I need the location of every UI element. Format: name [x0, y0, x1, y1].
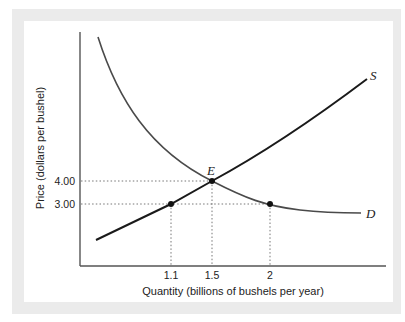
- y-axis-title: Price (dollars per bushel): [34, 87, 46, 209]
- supply-point-1-1: [168, 201, 174, 207]
- x-tick-2: 2: [267, 269, 273, 281]
- demand-curve: [98, 37, 361, 213]
- equilibrium-point: [209, 178, 215, 184]
- supply-demand-chart: E S D 4.00 3.00 1.1 1.5 2 Quantity (bill…: [0, 0, 405, 322]
- y-tick-4-00: 4.00: [55, 175, 76, 187]
- equilibrium-label: E: [206, 163, 215, 178]
- supply-curve: [96, 79, 367, 240]
- reference-lines: [81, 181, 270, 265]
- demand-point-2: [267, 201, 273, 207]
- supply-label: S: [370, 68, 377, 83]
- x-tick-1-5: 1.5: [205, 269, 220, 281]
- demand-label: D: [365, 206, 376, 221]
- x-axis-title: Quantity (billions of bushels per year): [142, 285, 324, 297]
- x-tick-1-1: 1.1: [164, 269, 179, 281]
- y-tick-3-00: 3.00: [55, 198, 76, 210]
